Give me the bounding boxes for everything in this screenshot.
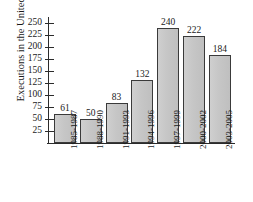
y-tick-mark (45, 47, 54, 48)
bar-value-label: 222 (174, 24, 214, 36)
plot-area: 255075100125150175200225250 615083132240… (48, 14, 238, 144)
x-axis-label: 1988-1990 (95, 110, 105, 149)
y-tick-mark (45, 95, 54, 96)
y-tick-label: 200 (8, 40, 42, 52)
y-tick-label: 175 (8, 52, 42, 64)
y-tick-mark (45, 131, 54, 132)
y-tick-mark (45, 71, 54, 72)
y-tick-label: 150 (8, 64, 42, 76)
x-axis-label: 1994-1996 (146, 110, 156, 149)
y-tick-mark (45, 59, 54, 60)
bar-value-label: 184 (200, 43, 240, 55)
y-tick-label: 225 (8, 28, 42, 40)
y-tick-label: 100 (8, 88, 42, 100)
y-tick-mark (45, 119, 54, 120)
y-tick-label: 50 (8, 112, 42, 124)
y-tick-label: 25 (8, 124, 42, 136)
y-tick-label: 75 (8, 100, 42, 112)
x-axis-label: 1991-1993 (121, 110, 131, 149)
x-axis-label: 2003-2005 (224, 110, 234, 149)
x-axis-label: 1985-1987 (69, 110, 79, 149)
x-axis-label: 2000-2002 (198, 110, 208, 149)
y-tick-mark (45, 35, 54, 36)
x-axis-label: 1997-1999 (172, 110, 182, 149)
y-tick-mark (45, 83, 54, 84)
y-tick-label: 250 (8, 16, 42, 28)
y-tick-mark (45, 23, 54, 24)
y-tick-label: 125 (8, 76, 42, 88)
bar-chart: Executions in the United States 25507510… (0, 0, 253, 202)
